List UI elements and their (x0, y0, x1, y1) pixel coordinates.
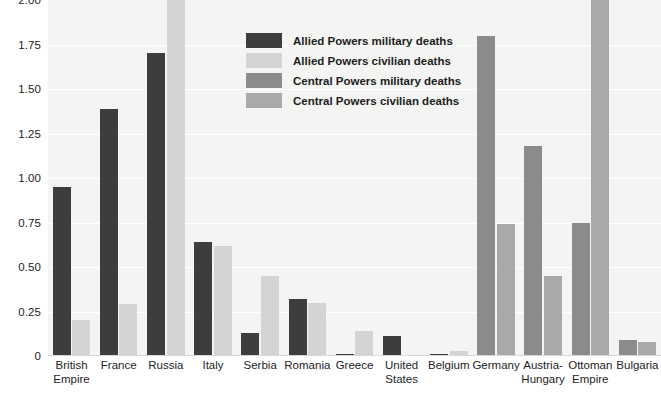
x-axis-tick-label: Bulgaria (614, 359, 661, 373)
x-axis: British EmpireFranceRussiaItalySerbiaRom… (48, 356, 661, 395)
bar (241, 333, 259, 356)
bar (497, 224, 515, 356)
y-axis-tick-label: 0.50 (18, 261, 41, 273)
x-axis-tick-label: Belgium (425, 359, 472, 373)
bar (119, 304, 137, 356)
bar (355, 331, 373, 356)
bar (477, 36, 495, 356)
gridline (48, 312, 661, 313)
y-axis-tick-label: 2.00 (18, 0, 41, 6)
x-axis-tick-label: Russia (142, 359, 189, 373)
bar (194, 242, 212, 356)
legend-item[interactable]: Allied Powers military deaths (246, 33, 461, 48)
legend-item-label: Central Powers military deaths (293, 75, 461, 87)
y-axis-tick-label: 0 (35, 350, 42, 362)
gridline (48, 178, 661, 179)
x-axis-tick-label: United States (378, 359, 425, 386)
bar (261, 276, 279, 356)
y-axis-tick-label: 1.25 (18, 128, 41, 140)
legend-item-label: Central Powers civilian deaths (293, 95, 459, 107)
x-axis-tick-label: Romania (284, 359, 331, 373)
bar (289, 299, 307, 356)
gridline (48, 134, 661, 135)
y-axis-tick-label: 1.00 (18, 172, 41, 184)
y-axis-tick-label: 0.75 (18, 217, 41, 229)
x-axis-tick-label: Germany (472, 359, 519, 373)
legend-swatch-icon (246, 93, 282, 108)
y-axis-tick-label: 1.50 (18, 83, 41, 95)
x-axis-tick-label: Austria- Hungary (520, 359, 567, 386)
legend-item[interactable]: Central Powers military deaths (246, 73, 461, 88)
legend-item[interactable]: Allied Powers civilian deaths (246, 53, 461, 68)
legend-swatch-icon (246, 73, 282, 88)
bar (214, 246, 232, 356)
y-axis-tick-label: 1.75 (18, 39, 41, 51)
legend-swatch-icon (246, 33, 282, 48)
gridline (48, 267, 661, 268)
x-axis-tick-label: Serbia (237, 359, 284, 373)
bar (100, 109, 118, 356)
x-axis-tick-label: British Empire (48, 359, 95, 386)
legend-item-label: Allied Powers military deaths (293, 35, 453, 47)
bar (524, 146, 542, 356)
bar (591, 0, 609, 356)
bar (53, 187, 71, 356)
legend-item[interactable]: Central Powers civilian deaths (246, 93, 461, 108)
bar (572, 223, 590, 357)
y-axis-tick-label: 0.25 (18, 306, 41, 318)
x-axis-tick-label: France (95, 359, 142, 373)
bar (544, 276, 562, 356)
gridline (48, 223, 661, 224)
x-axis-tick-label: Ottoman Empire (567, 359, 614, 386)
chart-legend: Allied Powers military deathsAllied Powe… (246, 33, 461, 108)
bar (167, 0, 185, 356)
bar (72, 320, 90, 356)
bar (383, 336, 401, 356)
x-axis-tick-label: Italy (189, 359, 236, 373)
bar (147, 53, 165, 356)
y-axis: 2.001.751.501.251.000.750.500.250 (0, 0, 48, 356)
bar (638, 342, 656, 356)
x-axis-tick-label: Greece (331, 359, 378, 373)
bar (619, 340, 637, 356)
legend-swatch-icon (246, 53, 282, 68)
bar (308, 303, 326, 356)
legend-item-label: Allied Powers civilian deaths (293, 55, 451, 67)
bar-chart: 2.001.751.501.251.000.750.500.250 Britis… (0, 0, 661, 395)
